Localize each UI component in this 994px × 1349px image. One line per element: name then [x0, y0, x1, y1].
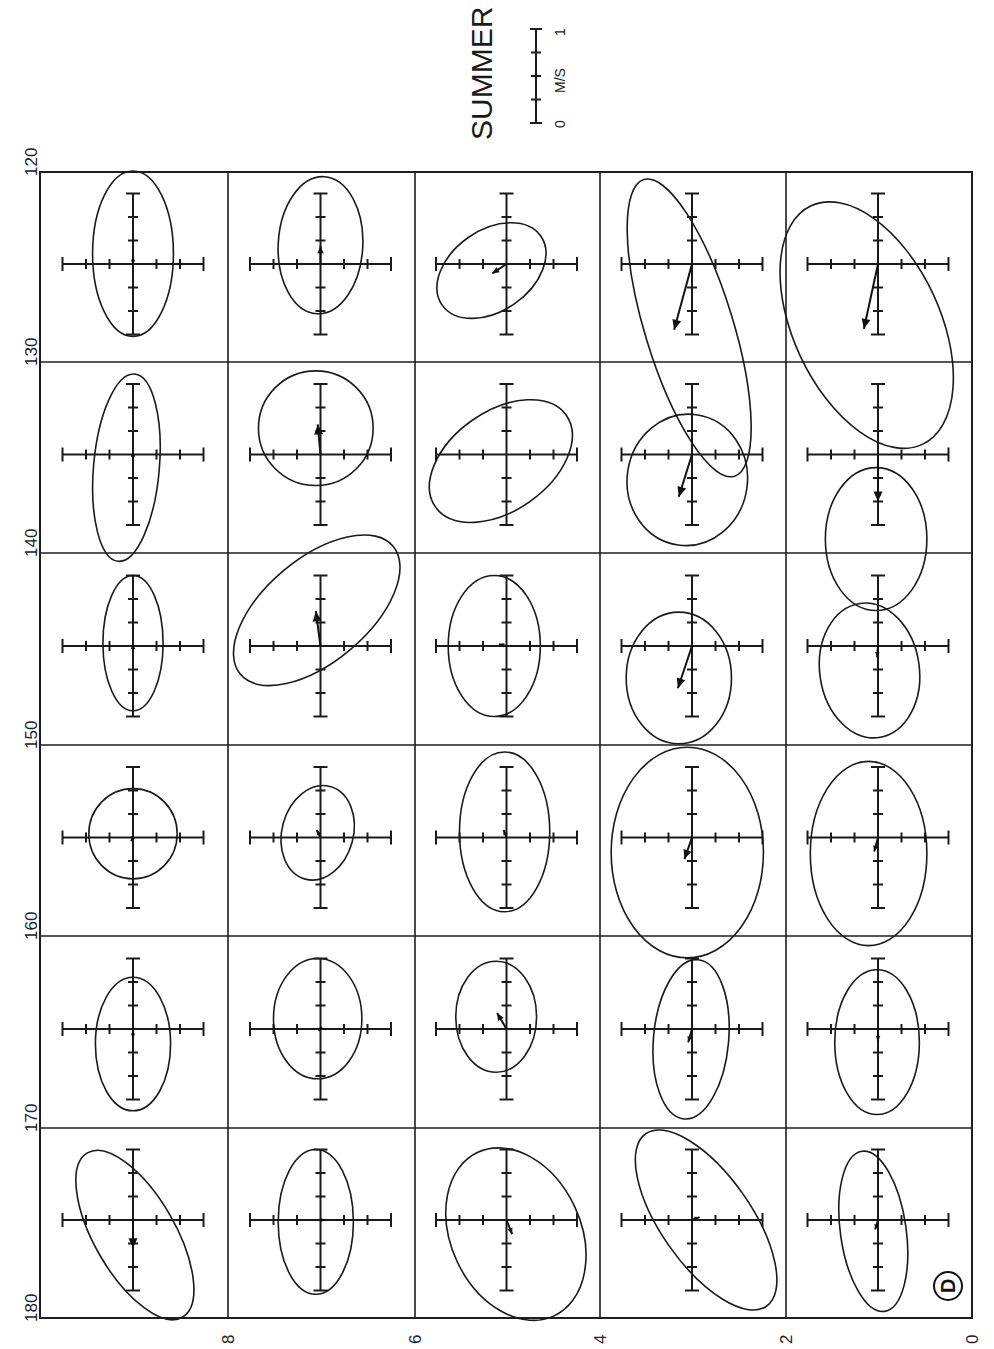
scale-unit-label: M/S: [552, 68, 568, 93]
cell: [250, 767, 391, 908]
variance-ellipse: [825, 468, 927, 611]
mean-vector-head: [875, 652, 879, 657]
variance-ellipse: [626, 612, 731, 744]
cell: [63, 576, 204, 717]
cell: [419, 194, 577, 339]
cell: [436, 959, 577, 1100]
variance-ellipse: [274, 959, 362, 1079]
mean-vector-head: [320, 1218, 325, 1223]
variance-ellipse: [602, 167, 777, 489]
cell: [63, 767, 204, 908]
mean-vector-head: [317, 246, 323, 253]
cell: [63, 371, 204, 564]
lat-tick-label: 4: [591, 1335, 610, 1344]
mean-vector-head: [677, 677, 686, 688]
cell: [436, 576, 577, 717]
scale-max-label: 1: [552, 28, 568, 36]
scale-min-label: 0: [552, 120, 568, 128]
variance-ellipse: [810, 761, 927, 945]
cell: [250, 959, 391, 1100]
cell: [808, 761, 949, 945]
mean-vector-head: [874, 492, 883, 502]
variance-ellipse: [619, 406, 756, 553]
lon-tick-label: 150: [22, 721, 41, 749]
variance-ellipse: [258, 371, 373, 486]
cell: [622, 956, 763, 1122]
variance-ellipse: [419, 1125, 613, 1343]
chart-title: SUMMER: [465, 7, 498, 140]
cell: [436, 752, 577, 912]
lon-tick-label: 160: [22, 912, 41, 940]
lon-tick-label: 120: [22, 148, 41, 176]
variance-ellipse: [85, 371, 167, 564]
longitude-axis: 120 130 140 150 160 170 180: [22, 148, 41, 1322]
cell: [250, 371, 391, 525]
cell: [419, 1125, 613, 1343]
cell: [602, 167, 777, 489]
lat-tick-label: 8: [219, 1335, 238, 1344]
cell: [250, 1150, 391, 1295]
lat-tick-label: 2: [777, 1335, 796, 1344]
cell: [745, 175, 989, 476]
mean-vector: [674, 264, 692, 330]
mean-vector-head: [684, 849, 692, 859]
cell: [611, 747, 763, 958]
lon-tick-label: 170: [22, 1104, 41, 1132]
grid: [40, 172, 972, 1318]
cell: [622, 576, 763, 744]
cell: [63, 171, 204, 336]
panel-letter: D: [937, 1279, 959, 1293]
mean-vector-head: [678, 486, 687, 497]
variance-ellipse: [278, 1150, 353, 1295]
variance-ellipse: [811, 596, 929, 744]
lon-tick-label: 140: [22, 529, 41, 557]
cell: [808, 1147, 949, 1316]
scale-bar: 0 M/S 1: [530, 28, 568, 128]
latitude-axis: 8 6 4 2 0: [219, 1335, 982, 1344]
variance-ellipse: [745, 175, 989, 476]
cell: [207, 507, 426, 717]
lon-tick-label: 180: [22, 1294, 41, 1322]
cell: [808, 576, 949, 745]
mean-vector-head: [131, 1033, 136, 1038]
panel-label: D: [934, 1272, 962, 1300]
mean-vector-head: [876, 1036, 881, 1041]
lon-tick-label: 130: [22, 338, 41, 366]
cell: [619, 384, 763, 553]
cell: [250, 174, 391, 334]
mean-vector-head: [131, 256, 136, 261]
current-ellipse-chart: SUMMER 0 M/S 1 120 130 140 150 160 170 1…: [0, 0, 994, 1349]
variance-ellipse: [52, 1133, 217, 1338]
mean-vector-head: [862, 318, 871, 329]
cell: [63, 959, 204, 1111]
cell: [808, 959, 949, 1115]
lat-tick-label: 0: [963, 1335, 982, 1344]
lat-tick-label: 6: [406, 1335, 425, 1344]
cell: [609, 1108, 804, 1332]
cells: [52, 167, 988, 1344]
cell: [52, 1133, 217, 1338]
variance-ellipse: [207, 507, 426, 714]
variance-ellipse: [419, 203, 564, 338]
cell: [407, 374, 595, 547]
variance-ellipse: [456, 961, 537, 1072]
